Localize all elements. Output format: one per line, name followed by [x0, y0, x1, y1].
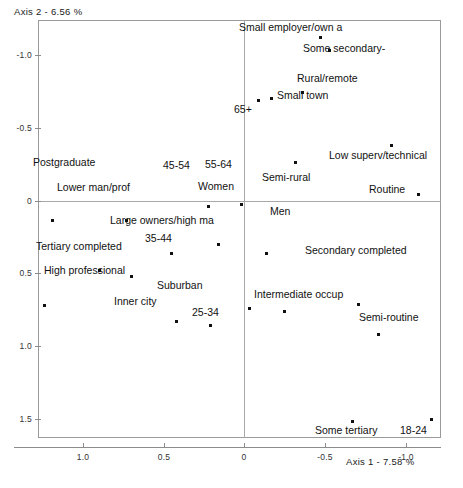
data-point-marker [357, 303, 360, 306]
data-point-label: Some tertiary [315, 425, 377, 436]
data-point-marker [283, 310, 286, 313]
data-point-label: Lower man/prof [57, 182, 130, 193]
plot-area [38, 20, 441, 438]
y-tick-label: 0 [6, 196, 32, 206]
data-point-marker [217, 243, 220, 246]
data-point-marker [175, 320, 178, 323]
y-axis-caption: Axis 2 - 6.56 % [14, 6, 82, 17]
data-point-label: Postgraduate [33, 157, 95, 168]
data-point-marker [51, 219, 54, 222]
y-tick [35, 201, 41, 202]
data-point-label: Tertiary completed [36, 241, 122, 252]
y-axis-zero-line [244, 20, 245, 438]
data-point-marker [207, 205, 210, 208]
data-point-marker [417, 193, 420, 196]
x-tick [164, 443, 165, 448]
x-tick-label: 1.0 [63, 452, 103, 462]
y-tick [35, 55, 41, 56]
data-point-label: Men [270, 206, 290, 217]
data-point-marker [265, 252, 268, 255]
data-point-label: Suburban [157, 280, 203, 291]
x-tick [244, 443, 245, 448]
data-point-marker [248, 307, 251, 310]
data-point-label: Semi-rural [262, 172, 310, 183]
data-point-label: 25-34 [192, 307, 219, 318]
y-tick-label: -1.0 [6, 50, 32, 60]
data-point-label: 35-44 [145, 233, 172, 244]
x-tick-label: 0.5 [144, 452, 184, 462]
data-point-label: Routine [369, 184, 405, 195]
data-point-marker [209, 324, 212, 327]
data-point-label: Some secondary- [303, 43, 385, 54]
data-point-label: Rural/remote [297, 73, 358, 84]
data-point-label: 65+ [234, 104, 252, 115]
data-point-marker [170, 252, 173, 255]
data-point-marker [294, 161, 297, 164]
data-point-marker [377, 333, 380, 336]
data-point-label: Low superv/technical [329, 150, 427, 161]
data-point-label: High professional [44, 265, 125, 276]
y-tick-label: 1.0 [6, 341, 32, 351]
data-point-marker [130, 275, 133, 278]
data-point-label: 18-24 [400, 425, 427, 436]
data-point-label: Semi-routine [359, 312, 419, 323]
data-point-marker [43, 304, 46, 307]
data-point-marker [270, 97, 273, 100]
x-tick-label: -0.5 [305, 452, 345, 462]
x-tick-label: 0 [224, 452, 264, 462]
x-axis-line [14, 447, 441, 448]
x-tick [325, 443, 326, 448]
data-point-marker [257, 99, 260, 102]
y-tick-label: 0.5 [6, 268, 32, 278]
data-point-label: Small employer/own a [239, 22, 342, 33]
y-tick [35, 346, 41, 347]
data-point-label: Small town [277, 90, 328, 101]
y-tick [35, 128, 41, 129]
data-point-label: Intermediate occup [254, 289, 343, 300]
x-tick [83, 443, 84, 448]
correspondence-analysis-chart: Axis 2 - 6.56 % -1.0-0.500.51.01.5 1.00.… [0, 0, 463, 488]
data-point-marker [240, 203, 243, 206]
y-tick [35, 273, 41, 274]
data-point-label: 45-54 [163, 160, 190, 171]
x-tick [406, 443, 407, 448]
data-point-marker [319, 36, 322, 39]
data-point-label: Secondary completed [305, 245, 407, 256]
data-point-label: Large owners/high ma [110, 215, 214, 226]
y-tick [35, 419, 41, 420]
data-point-marker [430, 418, 433, 421]
data-point-label: 55-64 [205, 159, 232, 170]
data-point-marker [390, 144, 393, 147]
x-axis-zero-line [38, 201, 441, 202]
data-point-label: Inner city [114, 296, 157, 307]
y-tick-label: 1.5 [6, 414, 32, 424]
y-tick-label: -0.5 [6, 123, 32, 133]
data-point-label: Women [198, 181, 234, 192]
x-axis-caption: Axis 1 - 7.58 % [346, 456, 414, 467]
